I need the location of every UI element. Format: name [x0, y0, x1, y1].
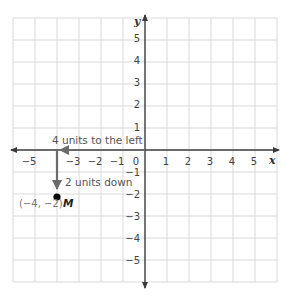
down-translation-label: 2 units down — [65, 176, 133, 188]
x-tick-label: 5 — [251, 156, 257, 167]
y-tick-label: −2 — [125, 189, 140, 200]
x-tick-label: 2 — [185, 156, 191, 167]
y-tick-label: −5 — [125, 255, 140, 266]
coordinate-plane-svg: y x −5 −3 −2 −1 0 1 2 3 4 5 5 4 3 2 1 −1… — [0, 0, 287, 298]
x-axis-label: x — [268, 154, 276, 167]
x-tick-label: −1 — [110, 156, 125, 167]
point-m-label: M — [63, 197, 74, 209]
y-tick-label: −4 — [125, 233, 140, 244]
y-tick-label: 5 — [134, 33, 140, 44]
origin-label: 0 — [133, 156, 139, 167]
point-m-coordinates: (−4, −2) — [19, 198, 63, 209]
y-axis-label: y — [133, 15, 142, 28]
y-tick-label: 2 — [134, 99, 140, 110]
left-translation-label: 4 units to the left — [52, 134, 143, 146]
x-tick-label: −5 — [22, 156, 37, 167]
x-tick-label: 1 — [163, 156, 169, 167]
x-tick-label: 4 — [229, 156, 235, 167]
y-tick-label: 3 — [134, 77, 140, 88]
y-tick-label: 1 — [134, 122, 140, 133]
x-tick-label: −3 — [66, 156, 81, 167]
x-tick-label: −2 — [88, 156, 103, 167]
y-tick-label: −3 — [125, 211, 140, 222]
y-tick-label: 4 — [134, 55, 140, 66]
x-tick-label: 3 — [207, 156, 213, 167]
coordinate-plane-figure: y x −5 −3 −2 −1 0 1 2 3 4 5 5 4 3 2 1 −1… — [0, 0, 287, 298]
